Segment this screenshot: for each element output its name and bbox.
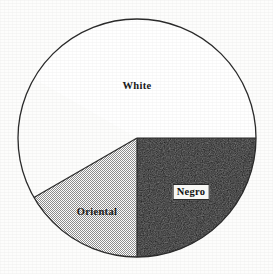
- pie-chart-svg: [0, 0, 273, 274]
- pie-chart-figure: White Oriental Negro: [0, 0, 273, 274]
- pie-label-white: White: [123, 81, 152, 92]
- pie-label-oriental: Oriental: [77, 207, 117, 218]
- pie-slice-oriental[interactable]: [34, 138, 137, 257]
- pie-label-negro: Negro: [173, 184, 210, 200]
- pie-slice-white[interactable]: [34, 19, 256, 138]
